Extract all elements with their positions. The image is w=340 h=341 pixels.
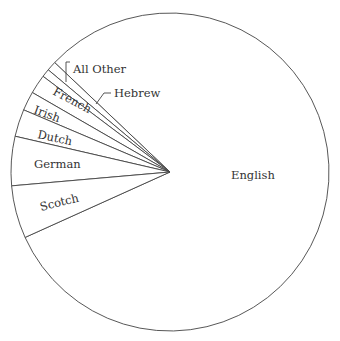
label-english: English — [231, 168, 275, 182]
label-hebrew: Hebrew — [114, 86, 160, 100]
pie-chart: EnglishAll OtherHebrewFrenchIrishDutchGe… — [0, 0, 340, 341]
label-all-other: All Other — [72, 62, 127, 76]
pie-slices — [11, 13, 329, 331]
label-german: German — [34, 157, 81, 171]
